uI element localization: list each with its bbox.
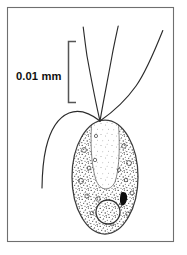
nucleus xyxy=(96,200,120,224)
protozoan-diagram: 0.01 mm xyxy=(0,0,187,255)
gullet-reservoir xyxy=(91,118,119,189)
figure-root: 0.01 mm xyxy=(0,0,187,255)
scale-bar-label: 0.01 mm xyxy=(16,70,61,82)
